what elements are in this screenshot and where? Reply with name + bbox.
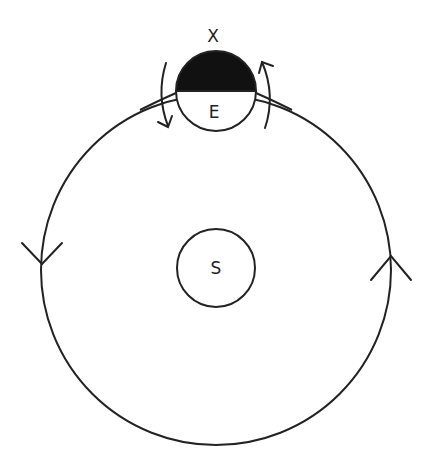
- sun: S: [177, 229, 255, 307]
- marker-x-label: X: [207, 26, 219, 46]
- earth-label: E: [209, 102, 220, 122]
- orbit-diagram: S E X: [0, 0, 431, 463]
- earth-shaded-half: [176, 51, 256, 91]
- earth: E: [176, 51, 256, 131]
- sun-label: S: [211, 258, 222, 278]
